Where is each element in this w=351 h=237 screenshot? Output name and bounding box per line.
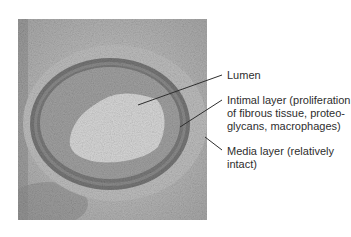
label-lumen: Lumen	[227, 69, 261, 82]
label-intimal-line-2: of fibrous tissue, proteo-	[227, 107, 351, 120]
label-media-line-2: intact)	[227, 158, 334, 171]
label-intimal-line-1: Intimal layer (proliferation	[227, 94, 351, 107]
label-media-layer: Media layer (relatively intact)	[227, 145, 334, 171]
label-intimal-layer: Intimal layer (proliferation of fibrous …	[227, 94, 351, 133]
intimal-leader-line	[180, 100, 222, 127]
media-leader-line	[205, 137, 222, 150]
label-media-line-1: Media layer (relatively	[227, 145, 334, 158]
lumen-leader-line	[138, 75, 222, 105]
label-intimal-line-3: glycans, macrophages)	[227, 120, 351, 133]
label-lumen-line-1: Lumen	[227, 69, 261, 82]
